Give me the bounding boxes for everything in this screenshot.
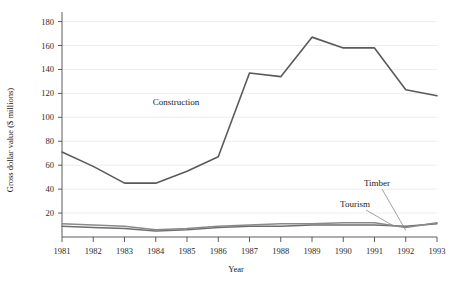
x-tick-label: 1989 bbox=[304, 246, 321, 256]
x-tick-label: 1987 bbox=[241, 246, 258, 256]
y-tick-label: 120 bbox=[41, 88, 54, 98]
x-tick-label: 1991 bbox=[366, 246, 383, 256]
series-line-construction bbox=[62, 37, 437, 183]
y-tick-label: 60 bbox=[46, 160, 55, 170]
x-tick-label: 1983 bbox=[116, 246, 133, 256]
y-axis-title: Gross dollar value ($ millions) bbox=[5, 88, 15, 193]
y-tick-label: 140 bbox=[41, 64, 54, 74]
x-tick-label: 1990 bbox=[335, 246, 352, 256]
y-tick-label: 40 bbox=[46, 184, 55, 194]
y-tick-labels: 20406080100120140160180 bbox=[41, 17, 54, 218]
line-chart: 20406080100120140160180 1981198219831984… bbox=[0, 0, 470, 288]
series-annotation-timber: Timber bbox=[364, 178, 390, 188]
y-tick-label: 180 bbox=[41, 17, 54, 27]
series-annotation-tourism: Tourism bbox=[340, 199, 370, 209]
x-tick-label: 1981 bbox=[54, 246, 71, 256]
y-tick-label: 160 bbox=[41, 41, 54, 51]
x-tick-label: 1984 bbox=[147, 246, 165, 256]
x-axis bbox=[62, 237, 437, 242]
x-tick-label: 1992 bbox=[397, 246, 414, 256]
series-annotation-construction: Construction bbox=[153, 97, 200, 107]
x-axis-title: Year bbox=[228, 264, 244, 274]
x-tick-label: 1988 bbox=[272, 246, 289, 256]
y-tick-label: 100 bbox=[41, 112, 54, 122]
x-tick-labels: 1981198219831984198519861987198819891990… bbox=[54, 246, 446, 256]
y-tick-label: 20 bbox=[46, 208, 55, 218]
chart-canvas: 20406080100120140160180 1981198219831984… bbox=[0, 0, 470, 288]
y-tick-label: 80 bbox=[46, 136, 55, 146]
x-tick-label: 1993 bbox=[429, 246, 446, 256]
y-axis bbox=[58, 12, 62, 237]
x-tick-label: 1986 bbox=[210, 246, 227, 256]
data-series bbox=[62, 37, 437, 231]
series-annotations: ConstructionTourismTimber bbox=[153, 97, 390, 209]
x-tick-label: 1982 bbox=[85, 246, 102, 256]
x-tick-label: 1985 bbox=[179, 246, 196, 256]
